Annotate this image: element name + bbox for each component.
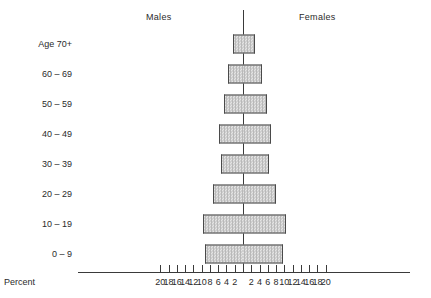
tick-label-right-4: 4	[257, 277, 262, 287]
tick-label-left-6: 6	[216, 277, 221, 287]
age-group-label: 40 – 49	[0, 129, 72, 139]
axis-tick	[301, 265, 302, 272]
axis-tick	[226, 265, 227, 272]
pyramid-row: 0 – 9	[0, 239, 431, 269]
tick-label-right-8: 8	[274, 277, 279, 287]
bar-males	[224, 95, 243, 114]
axis-tick	[210, 265, 211, 272]
age-group-label: 50 – 59	[0, 99, 72, 109]
age-group-label: 30 – 39	[0, 159, 72, 169]
age-group-label: 0 – 9	[0, 249, 72, 259]
bar-females	[243, 35, 255, 54]
axis-tick	[160, 265, 161, 272]
tick-label-left-2: 2	[232, 277, 237, 287]
pyramid-row: 10 – 19	[0, 209, 431, 239]
axis-tick	[260, 265, 261, 272]
tick-label-right-20: 20	[321, 277, 331, 287]
bar-females	[243, 125, 271, 144]
axis-tick	[251, 265, 252, 272]
pyramid-row: 30 – 39	[0, 149, 431, 179]
percent-axis-label: Percent	[4, 277, 35, 287]
axis-tick	[177, 265, 178, 272]
axis-tick	[268, 265, 269, 272]
axis-tick	[169, 265, 170, 272]
axis-tick	[317, 265, 318, 272]
bar-males	[221, 155, 243, 174]
pyramid-row: 40 – 49	[0, 119, 431, 149]
bar-females	[243, 185, 276, 204]
tick-label-right-2: 2	[249, 277, 254, 287]
age-group-label: 20 – 29	[0, 189, 72, 199]
tick-label-left-10: 10	[197, 277, 207, 287]
pyramid-row: 50 – 59	[0, 89, 431, 119]
axis-tick	[309, 265, 310, 272]
bar-females	[243, 65, 262, 84]
age-group-label: 10 – 19	[0, 219, 72, 229]
pyramid-row: 60 – 69	[0, 59, 431, 89]
pyramid-row: Age 70+	[0, 29, 431, 59]
plot-area: Age 70+60 – 6950 – 5940 – 4930 – 3920 – …	[0, 0, 431, 272]
bar-males	[219, 125, 243, 144]
pyramid-row: 20 – 29	[0, 179, 431, 209]
axis-tick	[185, 265, 186, 272]
axis-tick	[284, 265, 285, 272]
bar-males	[213, 185, 243, 204]
bar-females	[243, 155, 269, 174]
axis-tick	[326, 265, 327, 272]
bar-males	[233, 35, 243, 54]
population-pyramid-chart: Males Females Age 70+60 – 6950 – 5940 – …	[0, 0, 431, 298]
bar-females	[243, 95, 267, 114]
axis-tick	[202, 265, 203, 272]
axis-tick	[235, 265, 236, 272]
age-group-label: 60 – 69	[0, 69, 72, 79]
tick-label-left-4: 4	[224, 277, 229, 287]
bar-females	[243, 245, 283, 264]
bar-females	[243, 215, 286, 234]
bar-males	[205, 245, 243, 264]
bar-males	[228, 65, 243, 84]
tick-label-right-6: 6	[265, 277, 270, 287]
age-group-label: Age 70+	[0, 39, 72, 49]
x-axis-line	[78, 272, 410, 273]
bar-males	[203, 215, 243, 234]
axis-tick	[193, 265, 194, 272]
tick-label-left-8: 8	[207, 277, 212, 287]
axis-tick	[293, 265, 294, 272]
axis-tick	[218, 265, 219, 272]
axis-tick	[276, 265, 277, 272]
